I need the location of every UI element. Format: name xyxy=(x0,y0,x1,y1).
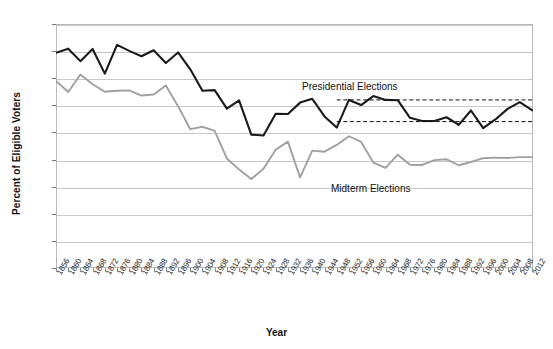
midterm-elections-label: Midterm Elections xyxy=(331,183,410,194)
x-axis-title: Year xyxy=(0,327,553,338)
voter-turnout-chart: Percent of Eligible Voters 0102030405060… xyxy=(0,0,553,349)
presidential-elections-label: Presidential Elections xyxy=(302,81,398,92)
x-axis-tick-group: 1856186018641868187218761880188418881892… xyxy=(0,0,553,349)
